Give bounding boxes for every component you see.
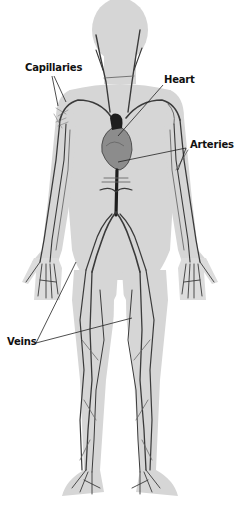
circulatory-system-diagram	[0, 0, 239, 506]
label-capillaries: Capillaries	[25, 63, 82, 73]
capillaries-leader-2	[54, 76, 66, 102]
label-arteries: Arteries	[190, 140, 234, 150]
capillaries-leader-1	[52, 76, 58, 106]
label-veins: Veins	[7, 337, 36, 347]
label-heart: Heart	[164, 75, 195, 85]
